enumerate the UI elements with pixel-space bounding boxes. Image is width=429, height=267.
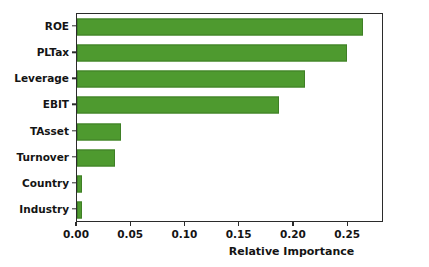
y-tick-label-roe: ROE [0,20,69,32]
x-tick-mark [130,222,131,226]
bar-leverage[interactable] [77,71,305,88]
bar-track [77,171,382,197]
bar-track [77,14,382,40]
y-tick-mark [72,208,76,209]
x-tick-mark [347,222,348,226]
bar-country[interactable] [77,175,82,192]
y-tick-label-country: Country [0,177,69,189]
bar-tasset[interactable] [77,123,121,140]
y-tick-mark [72,78,76,79]
bar-track [77,92,382,118]
x-tick-label-0.00: 0.00 [63,228,89,240]
plot-area [76,13,383,222]
y-tick-mark [72,182,76,183]
y-tick-label-pltax: PLTax [0,46,69,58]
bar-pltax[interactable] [77,45,347,62]
x-axis-title-text: Relative Importance [229,245,355,258]
y-tick-label-industry: Industry [0,203,69,215]
y-tick-mark [72,25,76,26]
y-tick-mark [72,156,76,157]
bar-track [77,145,382,171]
y-tick-mark [72,104,76,105]
y-tick-mark [72,130,76,131]
x-tick-label-0.15: 0.15 [226,228,252,240]
x-tick-label-0.05: 0.05 [117,228,143,240]
y-tick-label-turnover: Turnover [0,151,69,163]
bar-track [77,197,382,223]
bar-ebit[interactable] [77,97,279,114]
x-axis-title: Relative Importance [0,245,429,258]
bar-track [77,119,382,145]
bar-roe[interactable] [77,19,363,36]
y-tick-mark [72,51,76,52]
y-tick-label-ebit: EBIT [0,98,69,110]
x-tick-mark [184,222,185,226]
x-tick-label-0.20: 0.20 [280,228,306,240]
x-tick-mark [292,222,293,226]
bar-industry[interactable] [77,201,82,218]
bar-track [77,40,382,66]
y-tick-label-leverage: Leverage [0,72,69,84]
x-tick-mark [238,222,239,226]
y-tick-label-tasset: TAsset [0,125,69,137]
x-tick-label-0.10: 0.10 [172,228,198,240]
x-tick-mark [75,222,76,226]
x-tick-label-0.25: 0.25 [334,228,360,240]
bar-track [77,66,382,92]
bar-turnover[interactable] [77,149,115,166]
figure-canvas: ROEPLTaxLeverageEBITTAssetTurnoverCountr… [0,0,429,267]
